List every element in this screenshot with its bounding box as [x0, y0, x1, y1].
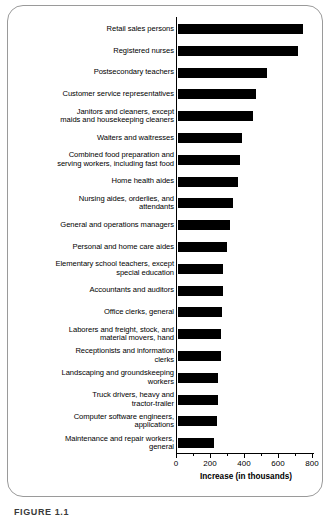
bar-track [178, 344, 314, 368]
bar-category-label: Registered nurses [14, 47, 178, 56]
bar-category-label: Waiters and waitresses [14, 134, 178, 143]
bar-fill [178, 198, 233, 208]
x-tick-label: 800 [300, 459, 324, 468]
x-tick-major [244, 453, 245, 458]
bar-row: Retail sales persons [14, 17, 314, 41]
bar-fill [178, 438, 214, 448]
bar-track [178, 300, 314, 324]
bar-track [178, 431, 314, 455]
figure-container: Retail sales personsRegistered nursesPos… [0, 0, 336, 518]
x-tick-label: 200 [198, 459, 222, 468]
bar-category-label: Janitors and cleaners, except maids and … [14, 108, 178, 125]
bar-category-label: Home health aides [14, 177, 178, 186]
bar-fill [178, 177, 238, 187]
x-tick-major [278, 453, 279, 458]
bar-chart: Retail sales personsRegistered nursesPos… [0, 0, 336, 518]
bar-row: Office clerks, general [14, 300, 314, 324]
bar-track [178, 257, 314, 281]
bar-track [178, 61, 314, 85]
x-tick-major [176, 453, 177, 458]
bar-row: Home health aides [14, 170, 314, 194]
bar-track [178, 213, 314, 237]
bar-fill [178, 220, 230, 230]
bar-row: Landscaping and groundskeeping workers [14, 366, 314, 390]
bar-track [178, 279, 314, 303]
bar-category-label: Retail sales persons [14, 25, 178, 34]
bar-row: Personal and home care aides [14, 235, 314, 259]
figure-caption: FIGURE 1.1 [14, 507, 69, 518]
bar-row: Laborers and freight, stock, and materia… [14, 322, 314, 346]
bar-category-label: Receptionists and information clerks [14, 347, 178, 364]
bar-row: Customer service representatives [14, 82, 314, 106]
bar-fill [178, 307, 222, 317]
x-tick-major [312, 453, 313, 458]
bar-track [178, 170, 314, 194]
bar-fill [178, 242, 227, 252]
bar-row: General and operations managers [14, 213, 314, 237]
bar-category-label: Accountants and auditors [14, 286, 178, 295]
bar-track [178, 82, 314, 106]
x-tick-label: 0 [164, 459, 188, 468]
bar-category-label: Truck drivers, heavy and tractor-trailer [14, 391, 178, 408]
x-tick-minor [261, 453, 262, 456]
bar-category-label: General and operations managers [14, 221, 178, 230]
bar-track [178, 39, 314, 63]
bar-category-label: Computer software engineers, application… [14, 413, 178, 430]
bar-row: Registered nurses [14, 39, 314, 63]
bar-row: Receptionists and information clerks [14, 344, 314, 368]
bar-row: Maintenance and repair workers, general [14, 431, 314, 455]
bar-category-label: Office clerks, general [14, 308, 178, 317]
bar-fill [178, 24, 303, 34]
bar-category-label: Elementary school teachers, except speci… [14, 260, 178, 277]
bar-category-label: Landscaping and groundskeeping workers [14, 369, 178, 386]
bar-fill [178, 286, 223, 296]
bar-fill [178, 133, 242, 143]
bar-fill [178, 68, 267, 78]
x-axis-line [176, 453, 314, 454]
bar-category-label: Maintenance and repair workers, general [14, 435, 178, 452]
bar-track [178, 191, 314, 215]
bar-track [178, 235, 314, 259]
bar-category-label: Personal and home care aides [14, 243, 178, 252]
bar-track [178, 148, 314, 172]
bar-row: Combined food preparation and serving wo… [14, 148, 314, 172]
x-tick-major [210, 453, 211, 458]
bar-fill [178, 416, 217, 426]
bar-category-label: Combined food preparation and serving wo… [14, 151, 178, 168]
bar-fill [178, 264, 223, 274]
bar-row: Janitors and cleaners, except maids and … [14, 104, 314, 128]
x-tick-minor [193, 453, 194, 456]
x-axis-title: Increase (in thousands) [176, 472, 316, 481]
bar-fill [178, 373, 218, 383]
x-tick-minor [227, 453, 228, 456]
bar-category-label: Postsecondary teachers [14, 68, 178, 77]
bar-fill [178, 395, 218, 405]
bar-row: Elementary school teachers, except speci… [14, 257, 314, 281]
bar-row: Truck drivers, heavy and tractor-trailer [14, 388, 314, 412]
bar-track [178, 409, 314, 433]
x-tick-label: 600 [266, 459, 290, 468]
bar-row: Accountants and auditors [14, 279, 314, 303]
bar-fill [178, 155, 240, 165]
bar-track [178, 322, 314, 346]
bar-track [178, 388, 314, 412]
bar-fill [178, 351, 221, 361]
bar-track [178, 366, 314, 390]
bar-track [178, 104, 314, 128]
x-tick-minor [295, 453, 296, 456]
bar-row: Waiters and waitresses [14, 126, 314, 150]
bar-row: Postsecondary teachers [14, 61, 314, 85]
bar-category-label: Customer service representatives [14, 90, 178, 99]
bar-fill [178, 111, 253, 121]
bar-row: Nursing aides, orderlies, and attendants [14, 191, 314, 215]
bar-row: Computer software engineers, application… [14, 409, 314, 433]
bar-fill [178, 89, 256, 99]
bar-category-label: Laborers and freight, stock, and materia… [14, 326, 178, 343]
bar-category-label: Nursing aides, orderlies, and attendants [14, 195, 178, 212]
x-tick-label: 400 [232, 459, 256, 468]
bar-fill [178, 46, 298, 56]
bar-track [178, 126, 314, 150]
bar-track [178, 17, 314, 41]
bar-fill [178, 329, 221, 339]
